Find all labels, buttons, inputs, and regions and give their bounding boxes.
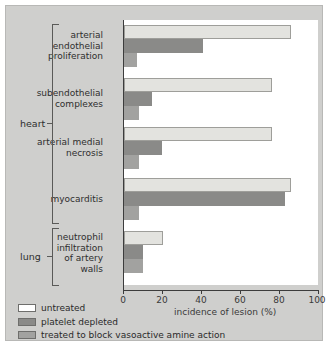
legend-swatch-untreated	[18, 304, 36, 312]
bar-platelet-depleted-myocarditis	[124, 192, 285, 206]
x-tick-label-60: 60	[234, 295, 245, 305]
bar-platelet-depleted-neutrophil-infiltration	[124, 245, 143, 259]
legend-swatch-vasoactive-blocked	[18, 331, 36, 339]
legend-item-untreated: untreated	[18, 302, 225, 314]
bar-vasoactive-blocked-arterial-endothelial-proliferation	[124, 53, 137, 67]
group-bracket-tick-lung	[47, 256, 52, 257]
legend-item-platelet-depleted: platelet depleted	[18, 316, 225, 328]
legend-item-vasoactive-blocked: treated to block vasoactive amine action	[18, 329, 225, 341]
legend-label-vasoactive-blocked: treated to block vasoactive amine action	[41, 330, 225, 340]
legend-label-platelet-depleted: platelet depleted	[41, 317, 118, 327]
x-tick-60	[240, 290, 241, 294]
group-label-heart: heart	[20, 118, 45, 129]
bar-untreated-myocarditis	[124, 178, 291, 192]
group-bracket-heart	[52, 24, 59, 224]
category-label-neutrophil-infiltration: neutrophil infiltration of artery walls	[57, 232, 103, 274]
x-axis-line	[123, 290, 319, 291]
x-tick-100	[318, 290, 319, 294]
group-bracket-lung	[52, 228, 59, 286]
category-label-subendothelial-complexes: subendothelial complexes	[37, 88, 103, 109]
bar-untreated-subendothelial-complexes	[124, 78, 272, 92]
x-tick-label-100: 100	[308, 295, 325, 305]
chart-figure: 0 20 40 60 80 100 incidence of lesion (%…	[5, 5, 323, 341]
bar-untreated-arterial-endothelial-proliferation	[124, 25, 291, 39]
bar-platelet-depleted-arterial-endothelial-proliferation	[124, 39, 203, 53]
bar-vasoactive-blocked-arterial-medial-necrosis	[124, 155, 139, 169]
group-bracket-tick-heart	[47, 123, 52, 124]
x-tick-40	[201, 290, 202, 294]
y-axis-line	[123, 20, 124, 291]
bar-platelet-depleted-subendothelial-complexes	[124, 92, 152, 106]
category-label-arterial-medial-necrosis: arterial medial necrosis	[37, 137, 103, 158]
x-tick-label-80: 80	[273, 295, 284, 305]
group-label-lung: lung	[20, 251, 41, 262]
x-tick-80	[279, 290, 280, 294]
bar-untreated-neutrophil-infiltration	[124, 231, 163, 245]
bar-vasoactive-blocked-neutrophil-infiltration	[124, 259, 143, 273]
bar-untreated-arterial-medial-necrosis	[124, 127, 272, 141]
bar-vasoactive-blocked-subendothelial-complexes	[124, 106, 139, 120]
legend: untreated platelet depleted treated to b…	[18, 302, 225, 343]
bar-vasoactive-blocked-myocarditis	[124, 206, 139, 220]
x-tick-0	[123, 290, 124, 294]
legend-label-untreated: untreated	[41, 303, 85, 313]
x-tick-20	[162, 290, 163, 294]
legend-swatch-platelet-depleted	[18, 318, 36, 326]
bar-platelet-depleted-arterial-medial-necrosis	[124, 141, 162, 155]
